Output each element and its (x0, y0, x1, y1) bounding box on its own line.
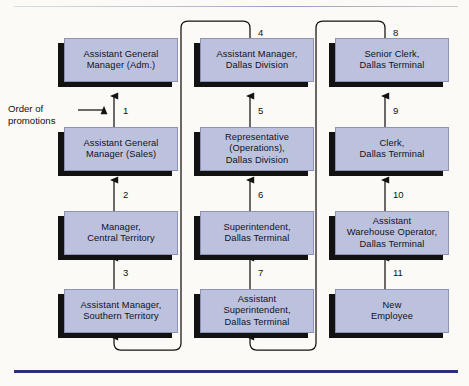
node-label: Manager, Central Territory (85, 222, 157, 245)
node-line-2: Central Territory (87, 233, 155, 243)
node-assistant-manager-dallas-division[interactable]: Assistant Manager, Dallas Division (200, 38, 314, 82)
step-number-11: 11 (393, 267, 403, 278)
order-of-promotions-caption: Order of promotions (8, 103, 74, 126)
node-line-3: Dallas Terminal (360, 239, 425, 249)
node-line-1: Representative (225, 132, 289, 142)
node-label: Assistant Manager, Dallas Division (215, 49, 300, 72)
caption-line-1: Order of (8, 103, 43, 114)
node-label: Senior Clerk, Dallas Terminal (358, 49, 427, 72)
promotion-ladder-figure: Order of promotions Assistant General Ma… (0, 0, 469, 386)
node-line-1: Assistant Manager, (217, 49, 298, 59)
node-line-2: Employee (371, 311, 413, 321)
node-line-1: Superintendent, (223, 222, 290, 232)
node-label: Clerk, Dallas Terminal (358, 138, 427, 161)
node-assistant-manager-southern-territory[interactable]: Assistant Manager, Southern Territory (64, 289, 178, 333)
node-line-2: Dallas Division (226, 60, 288, 70)
node-line-3: Dallas Division (226, 155, 288, 165)
node-label: Assistant Superintendent, Dallas Termina… (221, 294, 292, 328)
caption-line-2: promotions (8, 115, 55, 126)
node-line-2: Dallas Terminal (360, 60, 425, 70)
node-label: New Employee (369, 300, 415, 323)
node-senior-clerk-dallas-terminal[interactable]: Senior Clerk, Dallas Terminal (335, 38, 449, 82)
step-number-5: 5 (258, 105, 263, 116)
node-line-1: Assistant Manager, (81, 300, 162, 310)
node-new-employee[interactable]: New Employee (335, 289, 449, 333)
node-line-2: Southern Territory (83, 311, 159, 321)
node-line-1: Assistant General (83, 138, 158, 148)
node-line-2: Warehouse Operator, (347, 227, 437, 237)
step-number-7: 7 (258, 267, 263, 278)
node-line-2: Superintendent, (223, 305, 290, 315)
node-line-2: Manager (Sales) (86, 149, 156, 159)
node-label: Superintendent, Dallas Terminal (221, 222, 292, 245)
node-line-1: Assistant General (83, 49, 158, 59)
node-line-3: Dallas Terminal (225, 317, 290, 327)
node-line-1: Assistant (373, 216, 412, 226)
node-label: Assistant General Manager (Adm.) (81, 49, 160, 72)
step-number-10: 10 (393, 189, 404, 200)
step-number-3: 3 (123, 267, 128, 278)
node-representative-operations-dallas-division[interactable]: Representative (Operations), Dallas Divi… (200, 127, 314, 171)
step-number-8: 8 (393, 27, 398, 38)
node-line-2: Dallas Terminal (360, 149, 425, 159)
node-line-1: Clerk, (380, 138, 405, 148)
node-line-1: Manager, (101, 222, 141, 232)
step-number-6: 6 (258, 189, 263, 200)
node-line-2: Manager (Adm.) (87, 60, 156, 70)
node-line-1: Assistant (238, 294, 277, 304)
node-manager-central-territory[interactable]: Manager, Central Territory (64, 211, 178, 255)
step-number-2: 2 (123, 189, 128, 200)
step-number-4: 4 (258, 27, 263, 38)
node-line-1: New (383, 300, 402, 310)
node-assistant-general-manager-adm[interactable]: Assistant General Manager (Adm.) (64, 38, 178, 82)
node-line-2: (Operations), (229, 143, 285, 153)
node-label: Assistant General Manager (Sales) (81, 138, 160, 161)
node-label: Representative (Operations), Dallas Divi… (223, 132, 291, 166)
step-number-9: 9 (393, 105, 398, 116)
node-superintendent-dallas-terminal[interactable]: Superintendent, Dallas Terminal (200, 211, 314, 255)
node-assistant-warehouse-operator-dallas-terminal[interactable]: Assistant Warehouse Operator, Dallas Ter… (335, 211, 449, 255)
node-line-1: Senior Clerk, (364, 49, 419, 59)
node-line-2: Dallas Terminal (225, 233, 290, 243)
node-assistant-superintendent-dallas-terminal[interactable]: Assistant Superintendent, Dallas Termina… (200, 289, 314, 333)
node-label: Assistant Warehouse Operator, Dallas Ter… (345, 216, 439, 250)
step-number-1: 1 (123, 105, 128, 116)
node-label: Assistant Manager, Southern Territory (79, 300, 164, 323)
node-assistant-general-manager-sales[interactable]: Assistant General Manager (Sales) (64, 127, 178, 171)
node-clerk-dallas-terminal[interactable]: Clerk, Dallas Terminal (335, 127, 449, 171)
